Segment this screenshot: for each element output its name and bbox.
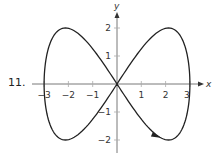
y-axis-arrow-icon xyxy=(115,12,120,18)
y-axis-label: y xyxy=(113,1,120,11)
parametric-plot: −3−2−1123−2−112 x y xyxy=(0,0,223,159)
x-axis-label: x xyxy=(205,79,212,89)
svg-text:1: 1 xyxy=(105,51,111,61)
svg-text:−1: −1 xyxy=(98,107,111,117)
direction-arrow-icon xyxy=(151,132,161,138)
svg-text:−2: −2 xyxy=(62,90,75,100)
x-axis-arrow-icon xyxy=(198,82,204,87)
svg-text:−2: −2 xyxy=(98,135,111,145)
svg-text:1: 1 xyxy=(138,90,144,100)
svg-text:2: 2 xyxy=(163,90,169,100)
svg-text:2: 2 xyxy=(105,23,111,33)
svg-text:−1: −1 xyxy=(86,90,99,100)
